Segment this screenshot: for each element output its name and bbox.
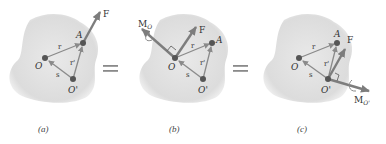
point-A [209,40,215,46]
label-s: s [186,71,190,79]
label-A: A [333,29,341,39]
label-A: A [75,30,83,40]
point-O-prime [325,76,331,82]
point-O [42,55,48,61]
equals-sign-2 [233,65,248,72]
label-r-prime: r' [70,59,75,67]
caption-c: (c) [297,124,307,134]
label-s: s [56,71,60,79]
label-O: O [291,62,299,72]
caption-b: (b) [169,124,180,134]
rigid-body-shape [139,14,228,103]
label-r-prime: r' [200,59,205,67]
label-O-prime: O' [198,85,208,95]
label-MO-prime: MO' [354,95,370,106]
label-O: O [168,62,176,72]
point-O [172,55,178,61]
caption-a: (a) [38,124,49,134]
label-F: F [199,25,205,35]
label-O-prime: O' [321,85,331,95]
point-O [296,55,302,61]
label-A: A [215,35,223,45]
rigid-body-shape [9,14,98,103]
equals-sign-1 [103,65,118,72]
point-A [80,40,86,46]
label-F: F [347,35,353,45]
point-A [334,40,340,46]
label-MO: MO [138,19,152,30]
label-F: F [103,9,109,19]
label-s: s [309,71,313,79]
equivalent-force-systems-figure: O A O' F r r' s (a) O A O' F r r' s MO (… [0,0,386,144]
point-O-prime [70,76,76,82]
label-O: O [35,61,43,71]
point-O-prime [200,76,206,82]
panel-c: O A O' F r r' s MO' (c) [263,14,370,134]
panel-a: O A O' F r r' s (a) [9,9,109,134]
panel-b: O A O' F r r' s MO (b) [138,14,228,134]
label-r-prime: r' [324,60,329,68]
label-O-prime: O' [68,85,78,95]
